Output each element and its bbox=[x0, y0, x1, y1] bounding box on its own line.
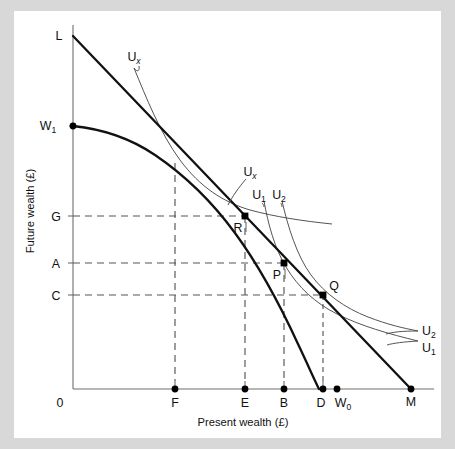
y-tick-label-W1: W1 bbox=[40, 119, 57, 135]
curve-label-U1: U1 bbox=[252, 188, 266, 204]
curve-label-Ux-top: Ux bbox=[127, 50, 141, 66]
point-marker-F bbox=[172, 386, 179, 393]
x-tick-label-B: B bbox=[280, 396, 288, 410]
point-marker-Q bbox=[320, 292, 327, 299]
point-label-Q: Q bbox=[329, 279, 339, 293]
point-marker-W0 bbox=[334, 386, 341, 393]
point-marker-P bbox=[281, 260, 288, 267]
curve-label-U2: U2 bbox=[272, 188, 286, 204]
figure-container: L M W1 G A C 0 F E B D W0 bbox=[0, 0, 455, 449]
curve-label-leaders bbox=[134, 66, 418, 345]
curve-label-U2-right: U2 bbox=[422, 324, 436, 340]
point-marker-D bbox=[320, 386, 327, 393]
indifference-curve-Ux bbox=[134, 68, 332, 224]
curve-label-Ux-mid: Ux bbox=[243, 165, 257, 181]
point-marker-R bbox=[242, 213, 249, 220]
x-tick-label-W0: W0 bbox=[335, 396, 352, 412]
curve-label-U1-right: U1 bbox=[422, 341, 436, 357]
y-tick-label-C: C bbox=[52, 289, 61, 303]
point-marker-M bbox=[408, 386, 415, 393]
leader-U1-right bbox=[387, 341, 418, 345]
axes-group bbox=[73, 25, 434, 389]
y-tick-label-G: G bbox=[51, 210, 61, 224]
x-tick-label-E: E bbox=[241, 396, 249, 410]
figure-panel: L M W1 G A C 0 F E B D W0 bbox=[14, 11, 441, 438]
point-marker-E bbox=[242, 386, 249, 393]
x-axis-ticks bbox=[175, 381, 323, 389]
wealth-diagram-svg: L M W1 G A C 0 F E B D W0 bbox=[14, 11, 441, 438]
point-label-P: P bbox=[273, 268, 281, 282]
point-labels-group: R P Q bbox=[234, 221, 340, 293]
label-M-axis: M bbox=[406, 395, 416, 409]
x-tick-label-F: F bbox=[171, 396, 179, 410]
y-axis-ticks bbox=[68, 126, 73, 295]
capital-market-line-LM bbox=[73, 36, 411, 389]
y-tick-labels: W1 G A C bbox=[40, 119, 61, 303]
origin-label: 0 bbox=[57, 396, 64, 410]
point-marker-W1 bbox=[70, 123, 77, 130]
y-axis-title: Future wealth (£) bbox=[24, 168, 36, 253]
x-tick-labels: 0 F E B D W0 bbox=[57, 396, 352, 412]
point-marker-B bbox=[281, 386, 288, 393]
label-L: L bbox=[56, 29, 63, 43]
y-tick-label-A: A bbox=[52, 257, 61, 271]
point-markers-group bbox=[70, 123, 415, 393]
point-label-R: R bbox=[234, 221, 243, 235]
x-axis-title: Present wealth (£) bbox=[198, 416, 289, 428]
x-tick-label-D: D bbox=[317, 396, 326, 410]
